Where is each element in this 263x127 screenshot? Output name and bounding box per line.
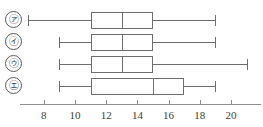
median-line xyxy=(122,12,123,29)
whisker-lower xyxy=(28,20,90,21)
x-axis-tick xyxy=(75,100,76,105)
x-axis-tick-label: 8 xyxy=(32,110,56,121)
boxplot-row xyxy=(0,31,263,53)
x-axis-tick xyxy=(200,100,201,105)
x-axis-tick xyxy=(106,100,107,105)
x-axis-tick-label: 12 xyxy=(94,110,118,121)
row-label-1: ㋐ xyxy=(5,11,22,28)
x-axis-tick-label: 10 xyxy=(63,110,87,121)
x-axis-line xyxy=(20,104,261,105)
box-iqr xyxy=(91,78,185,95)
cap-min xyxy=(28,15,29,26)
row-label-2: ㋑ xyxy=(5,33,22,50)
boxplot-row xyxy=(0,53,263,75)
x-axis-tick xyxy=(44,100,45,105)
whisker-lower xyxy=(59,42,90,43)
boxplot-row xyxy=(0,9,263,31)
whisker-lower xyxy=(59,86,90,87)
cap-min xyxy=(59,81,60,92)
cap-max xyxy=(215,81,216,92)
x-axis-tick xyxy=(231,100,232,105)
row-label-3: ㋒ xyxy=(5,55,22,72)
median-line xyxy=(153,78,154,95)
cap-max xyxy=(247,59,248,70)
median-line xyxy=(122,56,123,73)
median-line xyxy=(122,34,123,51)
x-axis-tick-label: 16 xyxy=(157,110,181,121)
cap-max xyxy=(215,15,216,26)
cap-max xyxy=(215,37,216,48)
whisker-lower xyxy=(59,64,90,65)
whisker-upper xyxy=(153,20,215,21)
x-axis-tick xyxy=(169,100,170,105)
x-axis-tick-label: 20 xyxy=(219,110,243,121)
whisker-upper xyxy=(153,64,247,65)
whisker-upper xyxy=(184,86,215,87)
x-axis-tick-label: 14 xyxy=(125,110,149,121)
whisker-upper xyxy=(153,42,215,43)
boxplot-row xyxy=(0,75,263,97)
row-label-4: ㋓ xyxy=(5,77,22,94)
boxplot-figure: 8101214161820 ㋐㋑㋒㋓ xyxy=(0,0,263,127)
cap-min xyxy=(59,59,60,70)
x-axis-tick xyxy=(137,100,138,105)
cap-min xyxy=(59,37,60,48)
x-axis-tick-label: 18 xyxy=(188,110,212,121)
